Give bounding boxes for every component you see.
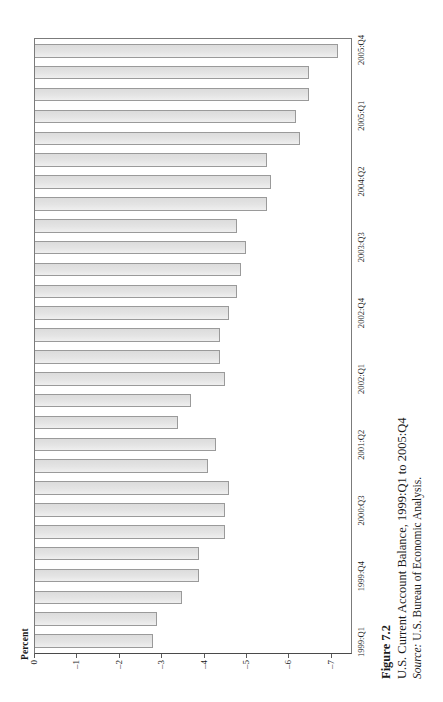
bar [35,219,237,233]
bar-slot [35,346,351,368]
category-axis-tick-label: 2003:Q3 [356,232,366,262]
bar [35,285,237,299]
value-axis-tick-label: –3 [156,660,166,669]
bar [35,547,199,561]
bar [35,416,178,430]
source-text: U.S. Bureau of Economic Analysis. [411,477,423,644]
bar [35,569,199,583]
bar-slot [35,499,351,521]
bar-slot [35,302,351,324]
value-axis-tick-label: –2 [114,660,124,669]
bar-slot [35,586,351,608]
bar-slot [35,127,351,149]
bar-slot [35,543,351,565]
bar-slot [35,62,351,84]
bar-slot [35,84,351,106]
category-axis-tick-label: 2005:Q4 [356,35,366,65]
category-axis-tick-label: 2002:Q1 [356,364,366,394]
bar-slot [35,368,351,390]
figure-container: Percent 0–1–2–3–4–5–6–7 1999:Q11999:Q420… [0,0,443,702]
category-axis-tick-label: 2005:Q1 [356,101,366,131]
bar [35,175,271,189]
value-axis-tick-label: –6 [283,660,293,669]
bar [35,372,225,386]
chart-plot-area: Percent 0–1–2–3–4–5–6–7 1999:Q11999:Q420… [18,34,368,680]
bar [35,481,229,495]
figure-number: Figure 7.2 [378,19,394,679]
value-axis-tick-label: 0 [29,660,39,665]
value-axis-tick-label: –5 [241,660,251,669]
bar-slot [35,565,351,587]
bar-slot [35,521,351,543]
source-prefix: Source: [411,644,423,679]
bar-slot [35,630,351,652]
bar [35,132,300,146]
bar-slot [35,193,351,215]
bar [35,634,153,648]
bar [35,44,338,58]
bar-slot [35,477,351,499]
bar-slot [35,40,351,62]
bar-slot [35,171,351,193]
figure-title: U.S. Current Account Balance, 1999:Q1 to… [394,19,410,679]
category-axis-tick-label: 2002:Q4 [356,298,366,328]
bar [35,197,267,211]
bar-slot [35,259,351,281]
bar [35,459,208,473]
bar-slot [35,280,351,302]
rotated-page-content: Percent 0–1–2–3–4–5–6–7 1999:Q11999:Q420… [0,0,443,702]
bar-slot [35,390,351,412]
category-axis-tick-label: 1999:Q1 [356,627,366,657]
bar [35,241,246,255]
bar [35,591,182,605]
bar [35,350,220,364]
value-axis-tick-label: –7 [326,660,336,669]
value-axis-tick-label: –4 [199,660,209,669]
bar [35,525,225,539]
bar-slot [35,433,351,455]
bar [35,306,229,320]
bar-slot [35,455,351,477]
bar-slot [35,237,351,259]
value-axis-title: Percent [20,628,30,660]
category-axis-tick-label: 2004:Q2 [356,167,366,197]
bar-series [35,39,351,653]
value-axis: 0–1–2–3–4–5–6–7 [34,653,352,680]
bar-slot [35,412,351,434]
bar [35,438,216,452]
bar-slot [35,106,351,128]
value-axis-tick-label: –1 [71,660,81,669]
bar-slot [35,324,351,346]
bar [35,328,220,342]
category-axis-tick-label: 2000:Q3 [356,495,366,525]
bar-slot [35,608,351,630]
category-axis-tick-label: 2001:Q2 [356,430,366,460]
bar-slot [35,149,351,171]
bar [35,612,157,626]
bar-slot [35,215,351,237]
figure-caption: Figure 7.2 U.S. Current Account Balance,… [378,19,425,679]
bar [35,394,191,408]
category-axis: 1999:Q11999:Q42000:Q32001:Q22002:Q12002:… [354,39,370,653]
figure-source: Source: U.S. Bureau of Economic Analysis… [410,19,425,679]
category-axis-tick-label: 1999:Q4 [356,561,366,591]
bar [35,110,296,124]
bar [35,503,225,517]
bar [35,88,309,102]
bar [35,263,241,277]
bar [35,66,309,80]
bar [35,153,267,167]
